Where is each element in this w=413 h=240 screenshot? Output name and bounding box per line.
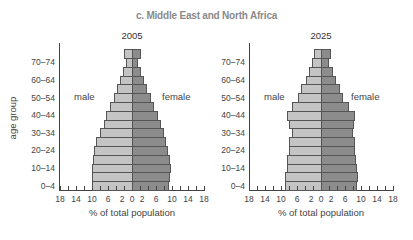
age-tick-label: 40–44 xyxy=(15,110,55,120)
age-tick-label: 10–14 xyxy=(15,163,55,173)
male-bar xyxy=(92,164,132,174)
female-bar xyxy=(321,84,340,94)
x-tick-label: 10 xyxy=(167,194,176,204)
female-bar xyxy=(132,137,166,147)
male-bar xyxy=(117,84,132,94)
x-tick xyxy=(148,186,149,190)
x-tick xyxy=(124,186,125,190)
age-tick-label: 70–74 xyxy=(15,57,55,67)
female-bar xyxy=(321,76,336,86)
female-bar xyxy=(321,128,353,138)
age-tick-label: 50–54 xyxy=(205,93,245,103)
male-bar xyxy=(287,111,321,121)
female-bar xyxy=(132,128,164,138)
x-tick xyxy=(172,186,173,190)
x-tick-label: 18 xyxy=(199,194,208,204)
male-bar xyxy=(301,84,321,94)
male-bar xyxy=(312,58,321,68)
center-line xyxy=(132,49,133,190)
x-tick xyxy=(100,186,101,190)
female-bar xyxy=(321,58,329,68)
x-tick xyxy=(116,186,117,190)
female-bar xyxy=(321,67,333,77)
female-bar xyxy=(132,93,151,103)
x-tick xyxy=(265,186,266,190)
male-bar xyxy=(106,111,132,121)
age-tick-label: 20–24 xyxy=(205,145,245,155)
female-bar xyxy=(132,120,161,130)
x-tick-label: 2 xyxy=(329,194,334,204)
age-tick-label: 30–34 xyxy=(15,128,55,138)
x-tick-label: 10 xyxy=(276,194,285,204)
male-bar xyxy=(292,102,321,112)
female-bar xyxy=(321,155,356,165)
age-tick-label: 40–44 xyxy=(205,110,245,120)
female-bar xyxy=(321,181,357,191)
female-bar xyxy=(321,172,358,182)
x-tick-label: 18 xyxy=(55,194,64,204)
x-tick xyxy=(156,186,157,190)
x-tick-label: 10 xyxy=(87,194,96,204)
x-tick xyxy=(345,186,346,190)
age-tick-label: 10–14 xyxy=(205,163,245,173)
x-tick xyxy=(60,186,61,190)
x-tick xyxy=(68,186,69,190)
male-bar xyxy=(298,93,321,103)
x-tick xyxy=(377,186,378,190)
panel-title: 2005 xyxy=(121,30,142,41)
x-tick xyxy=(361,186,362,190)
x-tick xyxy=(281,186,282,190)
age-tick-label: 70–74 xyxy=(205,57,245,67)
x-tick-label: 0 xyxy=(130,194,135,204)
x-tick-label: 14 xyxy=(183,194,192,204)
x-tick xyxy=(369,186,370,190)
age-tick-label: 20–24 xyxy=(15,145,55,155)
x-tick xyxy=(273,186,274,190)
male-bar xyxy=(94,146,132,156)
x-tick xyxy=(297,186,298,190)
x-axis-title: % of total population xyxy=(278,207,364,218)
female-bar xyxy=(321,111,355,121)
age-tick-label: 60–64 xyxy=(15,75,55,85)
x-tick xyxy=(249,186,250,190)
y-axis-line xyxy=(59,43,60,190)
female-bar xyxy=(132,49,141,59)
x-tick xyxy=(353,186,354,190)
male-bar xyxy=(285,181,321,191)
x-tick xyxy=(140,186,141,190)
male-bar xyxy=(287,155,321,165)
x-tick-label: 18 xyxy=(388,194,397,204)
female-bar xyxy=(132,155,170,165)
male-bar xyxy=(289,137,321,147)
male-bar xyxy=(93,155,132,165)
male-bar xyxy=(289,146,321,156)
x-tick-label: 6 xyxy=(343,194,348,204)
male-label: male xyxy=(74,91,95,102)
male-bar xyxy=(123,67,132,77)
x-tick-label: 2 xyxy=(140,194,145,204)
x-tick xyxy=(289,186,290,190)
x-tick xyxy=(393,186,394,190)
male-bar xyxy=(92,172,132,182)
x-tick xyxy=(385,186,386,190)
female-bar xyxy=(321,146,355,156)
age-tick-label: 30–34 xyxy=(205,128,245,138)
female-bar xyxy=(132,111,158,121)
age-tick-label: 0–4 xyxy=(205,181,245,191)
age-tick-label: 0–4 xyxy=(15,181,55,191)
male-bar xyxy=(104,120,132,130)
x-tick xyxy=(188,186,189,190)
x-tick-label: 10 xyxy=(356,194,365,204)
center-line xyxy=(321,49,322,190)
x-tick xyxy=(84,186,85,190)
male-bar xyxy=(92,181,132,191)
x-tick-label: 2 xyxy=(120,194,125,204)
x-tick xyxy=(180,186,181,190)
female-bar xyxy=(321,102,349,112)
x-tick xyxy=(164,186,165,190)
x-tick-label: 6 xyxy=(295,194,300,204)
female-bar xyxy=(132,164,171,174)
male-bar xyxy=(292,128,321,138)
male-bar xyxy=(314,49,321,59)
female-bar xyxy=(132,172,170,182)
